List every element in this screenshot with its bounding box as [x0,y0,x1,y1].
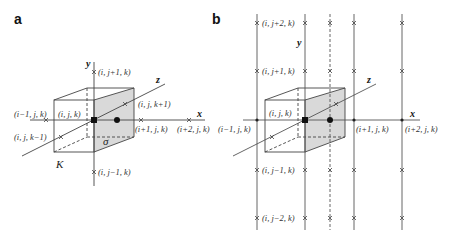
y-axis-label: y [85,58,91,69]
label-right2: (i+2, j, k) [177,124,210,134]
z-axis-label: z [155,74,160,85]
label-left: (i−1, j, k) [218,124,251,134]
panel-b: b y x z [212,11,438,230]
label-center: (i, j, k) [58,109,81,119]
center-node-square [302,117,308,123]
label-right1: (i+1, j, k) [135,124,168,134]
label-right1: (i+1, j, k) [356,124,389,134]
x-axis-label: x [409,108,415,119]
cell-label-K: K [55,158,64,170]
panel-a-label: a [14,11,22,27]
label-down1: (i, j−1, k) [262,165,295,175]
node [255,118,258,121]
label-down: (i, j−1, k) [98,167,131,177]
panel-b-label: b [212,11,221,27]
label-left: (i−1, j, k) [14,109,47,119]
label-up2: (i, j+2, k) [262,18,295,28]
panel-a: a y x z [14,11,210,186]
label-center: (i, j, k) [269,108,292,118]
z-axis-label: z [366,74,371,85]
stencil-diagram: a y x z [0,0,456,239]
label-up1: (i, j+1, k) [262,66,295,76]
node [352,118,355,121]
face-label-sigma: σ [103,135,109,147]
center-node-square [91,117,97,123]
y-axis-label: y [296,37,302,48]
label-front: (i, j, k+1) [138,99,171,109]
face-center-dot [327,117,333,123]
node [400,118,403,121]
face-center-dot [114,117,120,123]
label-back: (i, j, k−1) [14,132,47,142]
label-up: (i, j+1, k) [98,67,131,77]
x-axis-label: x [196,108,202,119]
label-down2: (i, j−2, k) [262,213,295,223]
label-right2: (i+2, j, k) [405,124,438,134]
